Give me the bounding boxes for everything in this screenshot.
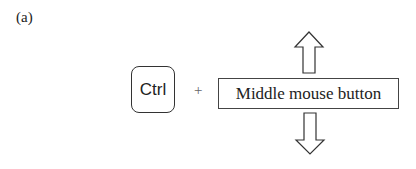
ctrl-key-label: Ctrl — [140, 80, 166, 100]
plus-operator: + — [194, 82, 202, 99]
middle-mouse-button-box: Middle mouse button — [218, 78, 399, 109]
arrow-down-icon — [294, 112, 326, 156]
arrow-up-icon — [293, 31, 325, 75]
ctrl-key: Ctrl — [131, 66, 175, 113]
middle-mouse-button-label: Middle mouse button — [236, 84, 381, 104]
panel-label: (a) — [16, 9, 33, 26]
